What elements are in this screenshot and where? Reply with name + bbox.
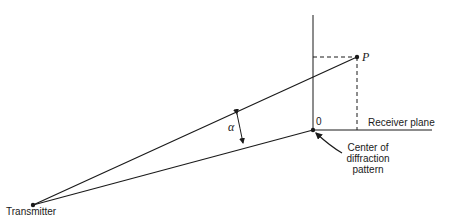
receiver-plane-label: Receiver plane — [368, 118, 435, 128]
point-p-dot — [355, 55, 359, 59]
center-label-line-2: diffraction — [338, 153, 398, 164]
transmitter-label: Transmitter — [6, 207, 56, 217]
center-of-diffraction-label: Center of diffraction pattern — [338, 142, 398, 175]
center-label-line-1: Center of — [338, 142, 398, 153]
origin-dot — [311, 128, 315, 132]
diagram-lines — [0, 0, 451, 223]
origin-label: 0 — [316, 117, 322, 127]
angle-alpha-label: α — [228, 121, 234, 133]
center-label-line-3: pattern — [338, 164, 398, 175]
angle-arc — [237, 114, 243, 143]
diffraction-diagram: Transmitter P 0 Receiver plane α Center … — [0, 0, 451, 223]
point-p-label: P — [362, 51, 369, 63]
